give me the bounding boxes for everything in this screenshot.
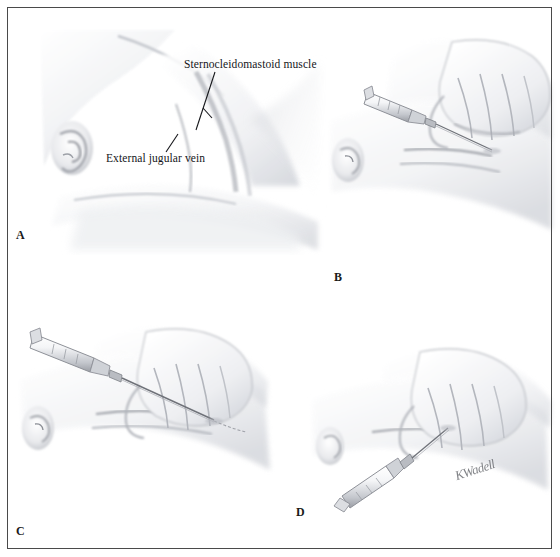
ear-panel-d: [316, 427, 344, 465]
artist-signature: KWadell: [453, 456, 497, 484]
ear-panel-b: [332, 138, 364, 182]
label-sternocleidomastoid-muscle: Sternocleidomastoid muscle: [184, 58, 317, 70]
hand-panel-b: [430, 40, 550, 148]
ear-panel-a: [51, 121, 93, 175]
panel-c-artwork: [20, 326, 270, 470]
hand-panel-d: [400, 349, 526, 458]
ear-panel-c: [22, 406, 54, 450]
leader-tick-sternocleidomastoid: [203, 108, 212, 118]
syringe-panel-b: [364, 86, 492, 152]
figure-plate: Sternocleidomastoid muscle External jugu…: [0, 0, 560, 557]
hand-panel-c: [126, 329, 252, 438]
panel-d-artwork: [312, 348, 552, 512]
syringe-panel-d: [334, 428, 449, 512]
panel-letter-d: D: [296, 505, 305, 520]
panel-b-artwork: [330, 38, 552, 230]
panel-letter-b: B: [334, 270, 342, 285]
panel-letter-a: A: [16, 228, 25, 243]
leader-line-sternocleidomastoid: [196, 72, 215, 130]
panel-letter-c: C: [16, 524, 25, 539]
label-external-jugular-vein: External jugular vein: [106, 152, 205, 164]
leader-line-external-jugular-vein: [166, 134, 178, 152]
catheter-panel-c: [30, 328, 246, 432]
